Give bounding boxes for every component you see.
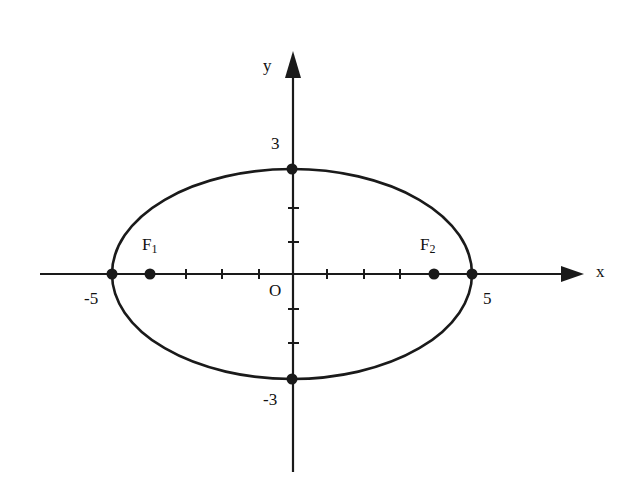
ellipse-diagram: [0, 0, 640, 502]
focus1-subscript: 1: [151, 242, 157, 256]
x-axis-arrow-icon: [561, 266, 584, 282]
focus2-label: F2: [420, 236, 435, 255]
y-axis-arrow-icon: [285, 51, 301, 78]
x-neg-label: -5: [84, 290, 98, 307]
focus1-point: [145, 269, 156, 280]
x-axis-label: x: [596, 263, 605, 280]
co-vertex-top-point: [287, 164, 298, 175]
vertex-right-point: [467, 269, 478, 280]
co-vertex-bottom-point: [287, 374, 298, 385]
x-pos-label: 5: [483, 290, 492, 307]
focus1-label: F1: [142, 236, 157, 255]
y-pos-label: 3: [271, 135, 280, 152]
y-neg-label: -3: [263, 391, 277, 408]
origin-label: O: [269, 282, 281, 299]
focus2-subscript: 2: [429, 242, 435, 256]
focus2-point: [429, 269, 440, 280]
y-axis-label-text: y: [263, 57, 272, 74]
vertex-left-point: [107, 269, 118, 280]
